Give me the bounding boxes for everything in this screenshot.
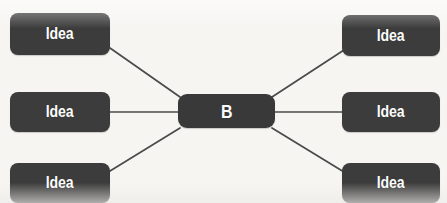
idea-node-label: Idea bbox=[46, 26, 73, 42]
idea-node-middle-left[interactable]: Idea bbox=[10, 92, 110, 132]
edge-top-right bbox=[272, 50, 344, 97]
idea-node-label: Idea bbox=[46, 104, 73, 120]
idea-node-middle-right[interactable]: Idea bbox=[342, 92, 440, 132]
idea-node-label: Idea bbox=[377, 28, 404, 44]
idea-node-label: Idea bbox=[377, 175, 404, 191]
edge-bottom-left bbox=[110, 128, 180, 171]
idea-node-label: Idea bbox=[46, 175, 73, 191]
center-node-label: B bbox=[221, 102, 232, 121]
edge-bottom-right bbox=[272, 128, 344, 172]
edge-top-left bbox=[110, 48, 180, 97]
idea-node-top-right[interactable]: Idea bbox=[342, 15, 440, 56]
idea-node-top-left[interactable]: Idea bbox=[10, 13, 110, 55]
mind-map-diagram: Idea Idea Idea Idea Idea Idea B bbox=[0, 0, 447, 203]
idea-node-bottom-left[interactable]: Idea bbox=[10, 163, 110, 203]
center-node-b[interactable]: B bbox=[178, 94, 275, 128]
idea-node-bottom-right[interactable]: Idea bbox=[342, 163, 440, 203]
idea-node-label: Idea bbox=[377, 104, 404, 120]
